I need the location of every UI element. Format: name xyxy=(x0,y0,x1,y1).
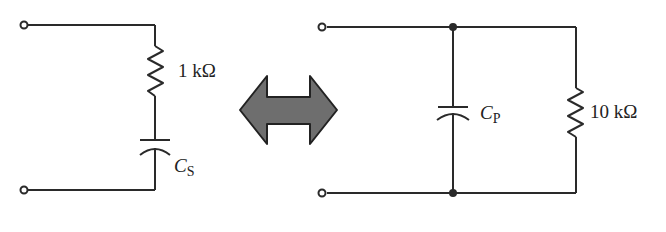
series-parallel-equivalence-diagram: 1 kΩ CS CP 10 kΩ xyxy=(0,0,666,232)
resistor-label-10k: 10 kΩ xyxy=(590,101,637,123)
circuit-drawing xyxy=(0,0,666,232)
capacitor-symbol: C xyxy=(174,155,187,176)
resistor-10k-icon xyxy=(568,88,583,137)
right-parallel-circuit xyxy=(319,23,584,197)
terminal-top-left-icon xyxy=(21,22,28,29)
double-arrow-icon xyxy=(240,76,337,144)
left-series-circuit xyxy=(21,22,171,194)
capacitor-label-cs: CS xyxy=(174,155,194,180)
junction-dot-top-icon xyxy=(449,23,457,31)
resistor-label-1k: 1 kΩ xyxy=(178,60,216,82)
terminal-bottom-right-icon xyxy=(319,190,326,197)
resistor-1k-icon xyxy=(148,46,163,96)
capacitor-label-cp: CP xyxy=(480,102,500,127)
terminal-top-right-icon xyxy=(319,24,326,31)
capacitor-subscript: S xyxy=(187,164,195,179)
terminal-bottom-left-icon xyxy=(21,187,28,194)
junction-dot-bottom-icon xyxy=(449,189,457,197)
capacitor-subscript: P xyxy=(493,111,501,126)
capacitor-symbol: C xyxy=(480,102,493,123)
